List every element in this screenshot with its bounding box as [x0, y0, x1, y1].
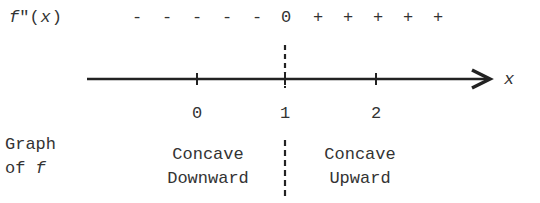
tick-label-2: 2 [366, 104, 386, 124]
tick-label-1: 1 [275, 104, 295, 124]
graph-of-f-label: Graph of f [5, 133, 56, 181]
tick-label-0: 0 [187, 104, 207, 124]
region-line1: Concave [300, 143, 420, 167]
axis-variable-label: x [504, 70, 514, 90]
region-concave-downward: Concave Downward [148, 143, 268, 191]
graph-label-line2: of f [5, 157, 56, 181]
region-line2: Downward [148, 167, 268, 191]
region-line2: Upward [300, 167, 420, 191]
graph-label-line1: Graph [5, 133, 56, 157]
number-line [0, 0, 540, 203]
region-concave-upward: Concave Upward [300, 143, 420, 191]
divider-dot [284, 86, 286, 88]
region-line1: Concave [148, 143, 268, 167]
